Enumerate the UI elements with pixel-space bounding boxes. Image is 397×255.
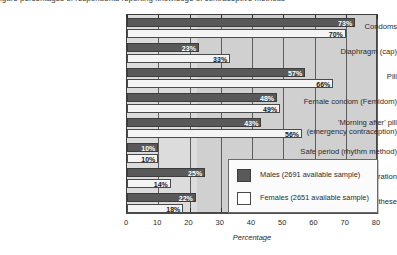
bar-value-label: 49% bbox=[263, 105, 277, 112]
bar-value-label: 33% bbox=[213, 55, 227, 62]
bar-value-label: 25% bbox=[188, 169, 202, 176]
bar-value-label: 48% bbox=[260, 94, 274, 101]
category-label: Safe period (rhythm method) bbox=[275, 147, 397, 156]
bar-males: 10% bbox=[127, 143, 158, 152]
chart-legend: Males (2691 available sample) Females (2… bbox=[228, 159, 378, 213]
x-axis-title: Percentage bbox=[126, 233, 378, 242]
bar-females: 10% bbox=[127, 154, 158, 163]
bar-value-label: 18% bbox=[166, 205, 180, 212]
bar-males: 43% bbox=[127, 118, 261, 127]
bar-value-label: 22% bbox=[179, 194, 193, 201]
category-label: 'Morning after' pill (emergency contrace… bbox=[275, 118, 397, 136]
axis-tick bbox=[190, 208, 191, 212]
axis-tick bbox=[377, 15, 378, 19]
x-tick-label: 50 bbox=[278, 219, 286, 227]
bar-females: 14% bbox=[127, 179, 171, 188]
bar-value-label: 66% bbox=[316, 80, 330, 87]
legend-swatch-females bbox=[237, 192, 251, 205]
x-tick-label: 70 bbox=[341, 219, 349, 227]
bar-males: 25% bbox=[127, 168, 205, 177]
legend-swatch-males bbox=[237, 169, 251, 182]
bar-females: 49% bbox=[127, 104, 280, 113]
legend-item-females: Females (2651 available sample) bbox=[237, 190, 369, 206]
legend-label-males: Males (2691 available sample) bbox=[260, 171, 360, 179]
bar-value-label: 70% bbox=[329, 30, 343, 37]
bar-females: 33% bbox=[127, 54, 230, 63]
x-tick-label: 10 bbox=[153, 219, 161, 227]
x-tick-label: 20 bbox=[184, 219, 192, 227]
bar-value-label: 23% bbox=[182, 44, 196, 51]
x-tick-label: 60 bbox=[309, 219, 317, 227]
x-tick-label: 30 bbox=[216, 219, 224, 227]
axis-tick bbox=[221, 208, 222, 212]
bar-males: 23% bbox=[127, 43, 199, 52]
category-label: Female condom (Femidom) bbox=[275, 97, 397, 106]
x-tick-label: 0 bbox=[124, 219, 128, 227]
category-label: Pill bbox=[275, 72, 397, 81]
legend-item-males: Males (2691 available sample) bbox=[237, 167, 360, 183]
legend-label-females: Females (2651 available sample) bbox=[260, 194, 369, 202]
bar-value-label: 10% bbox=[141, 144, 155, 151]
category-label: Condoms bbox=[275, 22, 397, 31]
category-label: Diaphragm (cap) bbox=[275, 47, 397, 56]
x-tick-label: 80 bbox=[372, 219, 380, 227]
bar-value-label: 14% bbox=[154, 180, 168, 187]
bar-value-label: 43% bbox=[244, 119, 258, 126]
bar-females: 18% bbox=[127, 204, 183, 213]
chart-figure: igure percentages of respondents reporti… bbox=[0, 0, 397, 255]
bar-males: 48% bbox=[127, 93, 277, 102]
x-tick-label: 40 bbox=[247, 219, 255, 227]
bar-value-label: 10% bbox=[141, 155, 155, 162]
bar-males: 22% bbox=[127, 193, 196, 202]
gridline bbox=[221, 15, 222, 212]
figure-caption-fragment: igure percentages of respondents reporti… bbox=[0, 0, 300, 7]
